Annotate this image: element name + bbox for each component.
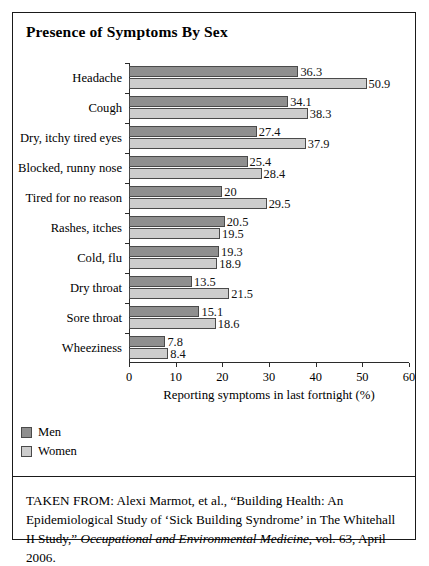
legend-label: Women [38,444,77,459]
category-label: Rashes, itches [0,217,122,239]
bar-value-label: 28.4 [264,166,286,181]
legend-item-men[interactable]: Men [21,423,77,442]
bar-women[interactable]: 37.9 [129,138,306,149]
bar-value-label: 38.3 [310,106,332,121]
legend-label: Men [38,425,61,440]
bar-men[interactable]: 13.5 [129,276,192,287]
x-tick-label: 50 [356,370,368,385]
bar-value-label: 27.4 [259,124,281,139]
category-tick [125,273,129,274]
bar-group: Dry, itchy tired eyes27.437.9 [129,123,409,153]
bar-group: Headache36.350.9 [129,63,409,93]
category-label: Blocked, runny nose [0,157,122,179]
bar-men[interactable]: 25.4 [129,156,248,167]
x-tick-label: 60 [403,370,415,385]
bar-group: Cough34.138.3 [129,93,409,123]
bar-women[interactable]: 50.9 [129,78,367,89]
category-label: Tired for no reason [0,187,122,209]
bar-value-label: 8.4 [170,346,186,361]
bar-women[interactable]: 18.9 [129,258,217,269]
chart-area: Headache36.350.9Cough34.138.3Dry, itchy … [13,51,415,476]
x-axis-title: Reporting symptoms in last fortnight (%) [129,388,409,403]
bar-men[interactable]: 20 [129,186,222,197]
bar-women[interactable]: 29.5 [129,198,267,209]
bar-group: Tired for no reason2029.5 [129,183,409,213]
category-tick [125,213,129,214]
bar-men[interactable]: 15.1 [129,306,199,317]
bar-value-label: 36.3 [300,64,322,79]
bar-value-label: 18.6 [218,316,240,331]
bar-men[interactable]: 19.3 [129,246,219,257]
bar-women[interactable]: 38.3 [129,108,308,119]
bar-value-label: 29.5 [269,196,291,211]
category-tick [125,303,129,304]
plot-area: Headache36.350.9Cough34.138.3Dry, itchy … [129,63,409,363]
category-label: Headache [0,67,122,89]
bar-women[interactable]: 18.6 [129,318,216,329]
category-label: Cold, flu [0,247,122,269]
x-tick-label: 0 [126,370,132,385]
legend-item-women[interactable]: Women [21,442,77,461]
bar-women[interactable]: 21.5 [129,288,229,299]
bar-group: Rashes, itches20.519.5 [129,213,409,243]
bar-men[interactable]: 7.8 [129,336,165,347]
category-tick [125,243,129,244]
figure-title: Presence of Symptoms By Sex [26,23,228,41]
x-tick [176,363,177,367]
source-journal: Occupational and Environmental Medicine [80,531,308,546]
bar-group: Wheeziness7.88.4 [129,333,409,363]
bar-women[interactable]: 8.4 [129,348,168,359]
bar-men[interactable]: 36.3 [129,66,298,77]
bar-women[interactable]: 19.5 [129,228,220,239]
bar-value-label: 21.5 [231,286,253,301]
bar-women[interactable]: 28.4 [129,168,262,179]
bar-value-label: 34.1 [290,94,312,109]
category-tick [125,63,129,64]
bar-value-label: 18.9 [219,256,241,271]
bar-group: Dry throat13.521.5 [129,273,409,303]
x-tick-label: 10 [169,370,181,385]
source-citation: TAKEN FROM: Alexi Marmot, et al., “Build… [26,491,402,566]
x-tick [269,363,270,367]
bar-men[interactable]: 27.4 [129,126,257,137]
x-tick-label: 40 [309,370,321,385]
category-tick [125,183,129,184]
category-tick [125,333,129,334]
bar-men[interactable]: 20.5 [129,216,225,227]
category-tick [125,153,129,154]
chart-legend: MenWomen [21,423,77,461]
x-tick [362,363,363,367]
category-label: Wheeziness [0,337,122,359]
bar-group: Sore throat15.118.6 [129,303,409,333]
category-label: Dry throat [0,277,122,299]
bar-value-label: 37.9 [308,136,330,151]
bar-value-label: 50.9 [369,76,391,91]
category-label: Dry, itchy tired eyes [0,127,122,149]
bar-men[interactable]: 34.1 [129,96,288,107]
source-divider [13,476,415,477]
x-tick-label: 20 [216,370,228,385]
category-tick [125,123,129,124]
category-label: Sore throat [0,307,122,329]
x-tick [409,363,410,367]
bar-group: Cold, flu19.318.9 [129,243,409,273]
category-label: Cough [0,97,122,119]
legend-swatch-men [21,427,32,438]
legend-swatch-women [21,446,32,457]
x-tick [222,363,223,367]
x-tick [129,363,130,367]
bar-value-label: 13.5 [194,274,216,289]
figure-frame: Presence of Symptoms By Sex Headache36.3… [12,12,416,540]
bar-value-label: 20 [224,184,236,199]
bar-group: Blocked, runny nose25.428.4 [129,153,409,183]
x-tick [316,363,317,367]
x-tick-label: 30 [263,370,275,385]
category-tick [125,93,129,94]
bar-value-label: 19.5 [222,226,244,241]
